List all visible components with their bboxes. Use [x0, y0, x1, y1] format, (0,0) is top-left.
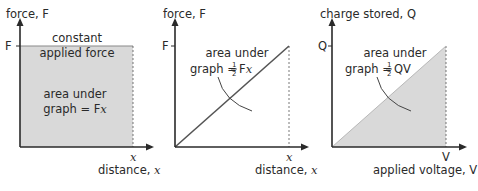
y-tick-label: F — [5, 39, 12, 53]
area-annotation-tail: Fx — [239, 62, 253, 76]
area-annotation-line1: area under — [206, 46, 269, 60]
area-annotation-line1: area under — [44, 87, 107, 101]
y-axis-label: charge stored, Q — [320, 7, 416, 21]
x-axis-label: distance, x — [98, 163, 161, 177]
panel-linear-force: force, F F x distance, x area under grap… — [162, 7, 318, 177]
diagram-canvas: force, F F x distance, x constant applie… — [0, 0, 478, 191]
panel-constant-force: force, F F x distance, x constant applie… — [5, 7, 161, 177]
half-denominator: 2 — [387, 70, 391, 78]
y-axis-label: force, F — [163, 7, 206, 21]
y-axis-label: force, F — [6, 7, 49, 21]
area-annotation-tail: QV — [394, 62, 411, 76]
half-numerator: 1 — [232, 61, 236, 69]
panel-capacitor-charge: charge stored, Q Q V applied voltage, V … — [318, 7, 477, 177]
area-annotation-line2: graph = — [190, 62, 237, 76]
constant-label: constant — [52, 31, 102, 45]
x-tick-label: x — [130, 150, 137, 164]
x-axis-label: distance, x — [255, 163, 318, 177]
x-tick-label: V — [442, 150, 450, 164]
applied-force-label: applied force — [39, 46, 114, 60]
x-axis-label: applied voltage, V — [373, 163, 477, 177]
half-numerator: 1 — [387, 61, 391, 69]
half-denominator: 2 — [232, 70, 236, 78]
x-tick-label: x — [286, 150, 293, 164]
area-annotation-line1: area under — [364, 46, 427, 60]
y-tick-label: F — [162, 39, 169, 53]
y-tick-label: Q — [318, 39, 327, 53]
area-annotation-line2: graph = Fx — [43, 102, 107, 116]
area-annotation-line2: graph = — [345, 62, 392, 76]
